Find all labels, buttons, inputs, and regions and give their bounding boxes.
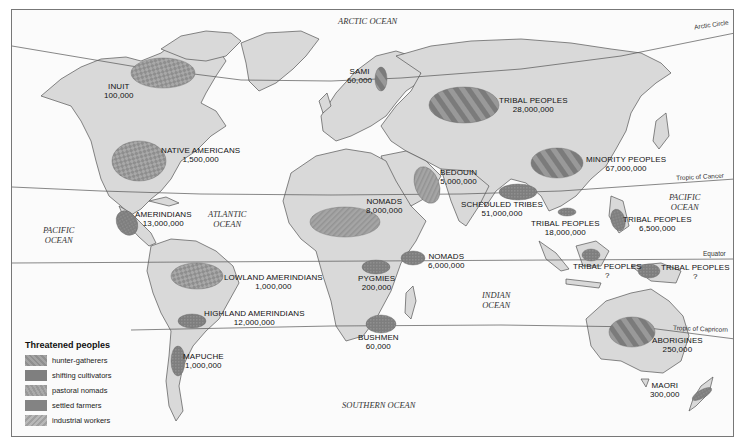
legend-item-settled-farmers: settled farmers <box>25 398 112 413</box>
label-pygmies: PYGMIES200,000 <box>358 274 395 292</box>
label-scheduled-tribes: SCHEDULED TRIBES51,000,000 <box>461 200 543 218</box>
pacific-ocean-east-label: PACIFIC OCEAN <box>669 192 700 212</box>
label-minority-peoples: MINORITY PEOPLES67,000,000 <box>586 155 666 173</box>
region-scheduled-tribes[interactable] <box>499 184 537 200</box>
label-tribal-peoples-russia: TRIBAL PEOPLES28,000,000 <box>499 96 568 114</box>
legend-swatch <box>25 415 47 426</box>
region-tribal-peoples-se-asia[interactable] <box>558 208 576 216</box>
label-tribal-peoples-se-asia: TRIBAL PEOPLES18,000,000 <box>531 219 600 237</box>
indian-ocean-label: INDIAN OCEAN <box>482 290 510 310</box>
legend-item-shifting-cultivators: shifting cultivators <box>25 368 112 383</box>
legend-swatch <box>25 385 47 396</box>
legend-swatch <box>25 370 47 381</box>
region-tribal-peoples-borneo[interactable] <box>582 249 600 261</box>
legend-swatch <box>25 400 47 411</box>
java <box>566 279 601 288</box>
region-aborigines[interactable] <box>609 317 655 347</box>
legend: Threatened peoples hunter-gatherers shif… <box>25 340 112 428</box>
arctic-ocean-label: ARCTIC OCEAN <box>338 16 397 26</box>
label-inuit: INUIT100,000 <box>104 82 134 100</box>
japan <box>653 113 669 149</box>
region-lowland-amerindians[interactable] <box>171 263 223 289</box>
label-mapuche: MAPUCHE1,000,000 <box>183 352 224 370</box>
label-amerindians: AMERINDIANS13,000,000 <box>135 210 192 228</box>
region-native-americans[interactable] <box>112 141 166 181</box>
tasmania <box>641 379 649 387</box>
label-tribal-peoples-borneo: TRIBAL PEOPLES? <box>573 262 642 280</box>
region-inuit[interactable] <box>131 58 195 88</box>
region-bushmen[interactable] <box>366 315 396 333</box>
pacific-ocean-west-label: PACIFIC OCEAN <box>43 225 74 245</box>
sumatra <box>539 241 569 271</box>
region-tribal-peoples-russia[interactable] <box>429 87 499 123</box>
label-nomads-east-africa: NOMADS6,000,000 <box>428 252 465 270</box>
legend-item-industrial-workers: industrial workers <box>25 413 112 428</box>
legend-item-hunter-gatherers: hunter-gatherers <box>25 353 112 368</box>
label-tribal-peoples-philippines: TRIBAL PEOPLES6,500,000 <box>623 215 692 233</box>
region-minority-peoples[interactable] <box>531 148 583 178</box>
label-lowland-amerindians: LOWLAND AMERINDIANS1,000,000 <box>224 273 323 291</box>
greenland <box>241 31 319 91</box>
label-maori: MAORI300,000 <box>650 381 680 399</box>
label-highland-amerindians: HIGHLAND AMERINDIANS12,000,000 <box>204 309 305 327</box>
legend-title: Threatened peoples <box>25 340 112 350</box>
madagascar <box>405 286 416 319</box>
equator-label: Equator <box>703 250 726 257</box>
atlantic-ocean-label: ATLANTIC OCEAN <box>208 209 246 229</box>
region-sami[interactable] <box>375 67 387 91</box>
label-sami: SAMI60,000 <box>347 67 372 85</box>
label-aborigines: ABORIGINES250,000 <box>652 336 703 354</box>
region-pygmies[interactable] <box>362 260 390 274</box>
southern-ocean-label: SOUTHERN OCEAN <box>342 400 415 410</box>
region-nomads-east-africa[interactable] <box>401 251 425 265</box>
north-america <box>41 37 226 215</box>
legend-swatch <box>25 355 47 366</box>
label-tribal-peoples-new-guinea: TRIBAL PEOPLES? <box>661 263 730 281</box>
label-native-americans: NATIVE AMERICANS1,500,000 <box>161 146 240 164</box>
label-bedouin: BEDOUIN5,000,000 <box>440 168 477 186</box>
label-bushmen: BUSHMEN60,000 <box>358 333 399 351</box>
legend-item-pastoral-nomads: pastoral nomads <box>25 383 112 398</box>
label-nomads-sahel: NOMADS8,000,000 <box>366 197 403 215</box>
region-highland-amerindians[interactable] <box>178 314 206 328</box>
caribbean <box>149 197 179 206</box>
